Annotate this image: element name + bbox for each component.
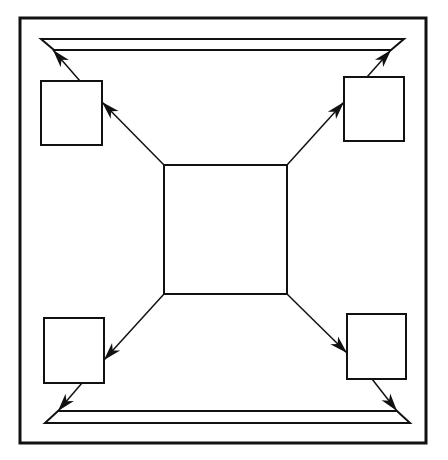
block-top-left — [41, 81, 102, 145]
arrow-top-left-to-top-rail — [53, 50, 80, 81]
arrow-center-to-top-left — [102, 102, 164, 165]
arrow-center-to-bottom-right — [287, 294, 347, 353]
block-center — [164, 165, 287, 294]
arrow-bottom-left-to-bottom-rail — [58, 383, 82, 411]
arrow-center-to-bottom-left — [104, 294, 164, 360]
arrow-bottom-right-to-bottom-rail — [372, 379, 397, 411]
arrow-center-to-top-right — [287, 102, 344, 165]
arrow-top-right-to-top-rail — [367, 50, 391, 77]
block-bottom-left — [44, 318, 104, 383]
top-rail — [41, 39, 404, 50]
block-diagram — [0, 0, 448, 460]
arrowhead-icon — [382, 393, 397, 411]
block-bottom-right — [347, 314, 406, 379]
block-top-right — [344, 77, 404, 141]
bottom-rail — [45, 411, 410, 423]
